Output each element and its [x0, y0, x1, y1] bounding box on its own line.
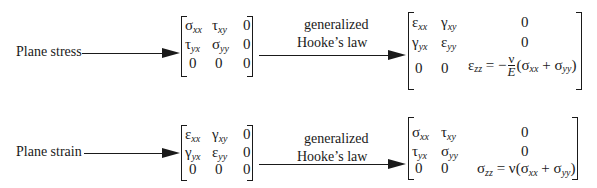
matrix-cell: 0 [415, 60, 423, 77]
matrix-cell: 0 [415, 160, 423, 177]
matrix-cell: 0 [243, 17, 251, 34]
matrix-cell: 0 [215, 161, 223, 178]
nu-over-e-fraction: νE [508, 53, 516, 78]
matrix-cell: 0 [243, 161, 251, 178]
matrix-cell: γxy [441, 14, 457, 32]
matrix-cell: 0 [441, 60, 449, 77]
epsilon-zz-formula: εzz = −νE(σxx + σyy) [468, 53, 576, 78]
input-arrow-line [82, 53, 162, 54]
matrix-cell: σxx [412, 124, 429, 142]
matrix-cell: 0 [189, 55, 197, 72]
matrix-cell: 0 [521, 143, 529, 160]
transform-label-line2: Hooke’s law [297, 149, 367, 165]
transform-label-line1: generalized [304, 17, 369, 33]
matrix-cell: 0 [441, 160, 449, 177]
input-arrow-line [84, 153, 162, 154]
matrix-cell: 0 [521, 124, 529, 141]
matrix-cell: γyx [185, 144, 201, 162]
matrix-cell: 0 [243, 126, 251, 143]
matrix-cell: τyx [185, 36, 200, 54]
sigma-zz-formula: σzz = ν(σxx + σyy) [477, 160, 576, 178]
transform-label-line2: Hooke’s law [297, 35, 367, 51]
matrix-cell: σyy [212, 36, 229, 54]
matrix-cell: 0 [189, 161, 197, 178]
transform-arrow-line [259, 55, 389, 56]
matrix-cell: 0 [243, 36, 251, 53]
matrix-cell: τyx [412, 143, 427, 161]
matrix-cell: 0 [215, 55, 223, 72]
arrowhead-icon [162, 148, 180, 158]
matrix-cell: 0 [521, 34, 529, 51]
matrix-cell: τxy [441, 124, 456, 142]
plane-stress-label: Plane stress [16, 44, 82, 60]
matrix-cell: γxy [212, 126, 228, 144]
transform-arrow-line [259, 164, 389, 165]
matrix-cell: σxx [185, 17, 202, 35]
matrix-cell: εyy [212, 144, 227, 162]
transform-label-line1: generalized [304, 131, 369, 147]
arrowhead-icon [162, 48, 180, 58]
matrix-cell: τxy [212, 17, 227, 35]
matrix-cell: εxx [412, 14, 427, 32]
matrix-cell: εyy [441, 34, 456, 52]
matrix-cell: 0 [243, 55, 251, 72]
matrix-cell: γyx [412, 34, 428, 52]
plane-strain-label: Plane strain [16, 144, 82, 160]
matrix-cell: εxx [185, 126, 200, 144]
matrix-cell: 0 [521, 14, 529, 31]
arrowhead-icon [388, 159, 406, 169]
matrix-cell: 0 [243, 144, 251, 161]
arrowhead-icon [388, 50, 406, 60]
matrix-cell: σyy [441, 143, 458, 161]
right-bracket [576, 12, 582, 90]
